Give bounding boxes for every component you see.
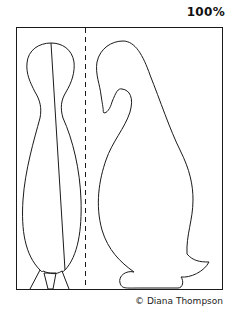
pattern-frame bbox=[17, 28, 223, 290]
side-piece-outline bbox=[97, 41, 209, 288]
copyright-credit: © Diana Thompson bbox=[135, 296, 223, 306]
front-piece-outline bbox=[23, 43, 82, 289]
front-piece-feet bbox=[40, 270, 69, 289]
pattern-sheet bbox=[0, 0, 237, 318]
